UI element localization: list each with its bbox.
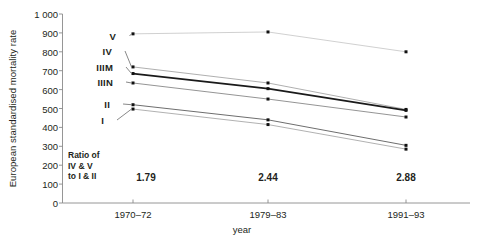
series-label-IIIN: IIIN (97, 77, 113, 88)
series-label-V: V (109, 31, 116, 42)
series-label-IV: IV (103, 46, 112, 57)
x-tick-label: 1970–72 (115, 209, 152, 220)
data-point-V-0 (132, 32, 135, 35)
x-axis-title: year (0, 224, 484, 235)
series-leader-IIIN (126, 82, 132, 83)
ratio-caption: Ratio ofIV & Vto I & II (68, 150, 100, 182)
chart-figure: European standardised mortality rate 010… (0, 0, 484, 244)
data-point-IIIN-0 (132, 81, 135, 84)
series-label-IIIM: IIIM (96, 62, 113, 73)
data-point-IIIM-0 (132, 72, 135, 75)
data-point-V-1 (267, 30, 270, 33)
data-point-II-2 (405, 144, 408, 147)
series-leader-IV (125, 51, 132, 67)
ratio-caption-line: IV & V (68, 161, 100, 172)
data-point-I-2 (405, 148, 408, 151)
ratio-value: 1.79 (136, 172, 155, 183)
data-point-II-1 (267, 118, 270, 121)
series-leader-V (130, 34, 132, 36)
series-label-I: I (101, 115, 104, 126)
series-label-II: II (104, 99, 110, 110)
ratio-value: 2.44 (258, 172, 277, 183)
data-point-IIIN-1 (267, 98, 270, 101)
ratio-value: 2.88 (396, 172, 415, 183)
data-point-I-0 (132, 108, 135, 111)
series-line-I (133, 109, 406, 149)
data-point-V-2 (405, 50, 408, 53)
series-leader-IIIM (126, 67, 132, 74)
data-point-I-1 (267, 123, 270, 126)
data-point-IIIM-2 (405, 109, 408, 112)
data-point-IV-1 (267, 81, 270, 84)
data-point-IV-0 (132, 65, 135, 68)
x-tick-label: 1991–93 (388, 209, 425, 220)
ratio-caption-line: to I & II (68, 171, 100, 182)
series-leader-I (117, 109, 132, 120)
x-tick-label: 1979–83 (250, 209, 287, 220)
series-line-IIIM (133, 74, 406, 111)
ratio-caption-line: Ratio of (68, 150, 100, 161)
data-point-II-0 (132, 103, 135, 106)
series-leader-II (123, 104, 132, 105)
data-point-IIIM-1 (267, 87, 270, 90)
plot-area (0, 0, 484, 244)
series-line-V (133, 32, 406, 52)
data-point-IIIN-2 (405, 116, 408, 119)
